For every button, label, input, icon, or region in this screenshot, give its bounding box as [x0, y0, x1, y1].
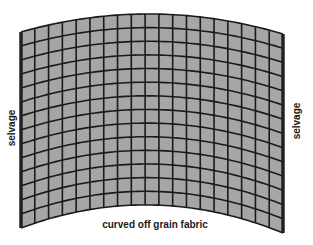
diagram: selvage selvage curved off grain fabric — [0, 0, 313, 245]
left-selvage-label: selvage — [6, 109, 17, 146]
caption: curved off grain fabric — [102, 219, 208, 230]
right-selvage-label: selvage — [291, 102, 302, 139]
curved-fabric-grid: selvage selvage curved off grain fabric — [0, 0, 313, 245]
